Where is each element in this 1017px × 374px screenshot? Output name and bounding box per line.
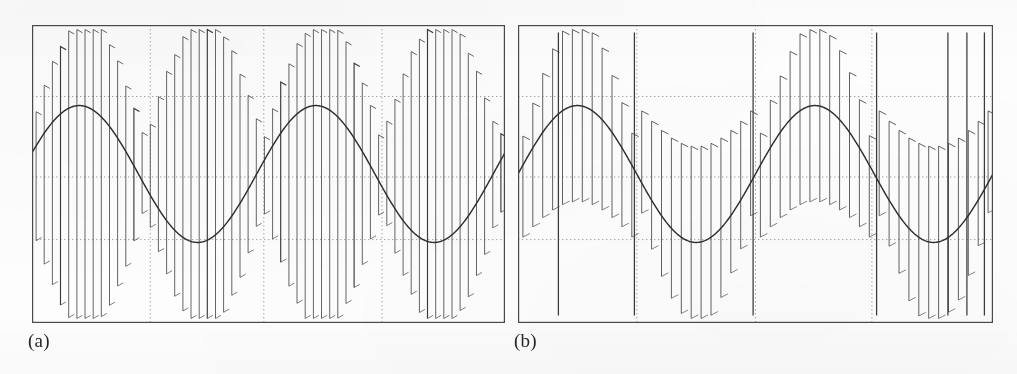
- pwm-pulse: [751, 111, 758, 216]
- pwm-pulse: [711, 143, 718, 315]
- pwm-pulse: [468, 53, 474, 297]
- pwm-pulse-foot: [289, 283, 295, 286]
- pwm-pulse-foot: [592, 201, 599, 205]
- pwm-pulse-foot: [322, 315, 328, 318]
- pwm-pulse-foot: [216, 315, 222, 318]
- pwm-pulse: [118, 61, 124, 286]
- pwm-pulse-foot: [370, 236, 376, 239]
- pwm-pulse-foot: [110, 302, 116, 305]
- pwm-pulse: [216, 30, 222, 319]
- pwm-pulse: [632, 133, 639, 237]
- pwm-pulse-foot: [199, 315, 205, 318]
- pwm-pulse: [419, 39, 425, 312]
- pwm-pulse-foot: [395, 250, 401, 253]
- pwm-pulse-foot: [436, 315, 442, 318]
- pwm-pulse-foot: [354, 284, 360, 287]
- pwm-pulse: [929, 146, 936, 318]
- pwm-pulse: [485, 98, 491, 255]
- pwm-pulse: [281, 82, 287, 262]
- pwm-pulse-foot: [183, 308, 189, 311]
- pwm-pulse: [949, 143, 956, 312]
- pwm-pulse: [691, 146, 698, 318]
- pwm-pulse-foot: [134, 238, 140, 241]
- pwm-pulse-foot: [652, 246, 659, 250]
- pwm-pulse-foot: [721, 294, 728, 298]
- pwm-pulse-foot: [939, 315, 946, 319]
- pwm-pulse: [760, 133, 767, 237]
- pwm-pulse-foot: [248, 250, 254, 253]
- pwm-pulse-foot: [543, 214, 550, 218]
- pwm-pulse: [191, 30, 197, 319]
- pwm-pulse-foot: [240, 274, 246, 277]
- pwm-pulse-foot: [929, 315, 936, 319]
- plot-frame-a: [33, 26, 505, 323]
- pwm-pulse-foot: [751, 212, 758, 216]
- pwm-pulse: [662, 130, 669, 276]
- pwm-pulse: [264, 137, 270, 214]
- pwm-pulse: [642, 111, 649, 213]
- pwm-pulse: [322, 30, 328, 319]
- pwm-pulse-foot: [572, 198, 579, 202]
- pwm-pulse: [460, 34, 466, 311]
- pwm-pulse: [403, 74, 409, 276]
- pwm-pulse: [869, 136, 876, 238]
- pwm-pulse: [379, 135, 385, 215]
- pwm-pulse-foot: [191, 315, 197, 318]
- pwm-pulse: [297, 44, 303, 304]
- pwm-pulse: [44, 85, 50, 264]
- waveform-canvas-a: [32, 25, 505, 323]
- pwm-pulse: [592, 33, 599, 205]
- pwm-pulse: [101, 30, 107, 317]
- pwm-pulse: [780, 76, 787, 218]
- pwm-pulse-foot: [889, 243, 896, 247]
- pwm-pulse: [879, 111, 886, 216]
- pwm-pulse: [830, 35, 837, 204]
- pwm-pulse-foot: [338, 315, 344, 318]
- pwm-pulse: [800, 34, 807, 205]
- pwm-pulse-foot: [256, 223, 262, 226]
- pwm-pulse: [232, 51, 238, 296]
- pwm-pulse-foot: [671, 295, 678, 299]
- pwm-pulse-foot: [662, 273, 669, 277]
- pwm-pulse-foot: [859, 223, 866, 227]
- pwm-pulse-foot: [362, 261, 368, 264]
- pwm-pulse: [346, 42, 352, 304]
- pwm-pulse: [428, 30, 434, 319]
- pwm-pulse: [387, 121, 393, 226]
- pwm-pulse-train-a: [36, 30, 505, 319]
- pwm-pulse: [810, 30, 817, 202]
- pwm-pulse-foot: [701, 315, 708, 319]
- pwm-pulse: [273, 109, 279, 239]
- pwm-pulse: [175, 55, 181, 297]
- pwm-pulse: [533, 103, 540, 227]
- pwm-pulse: [167, 71, 173, 274]
- pwm-pulse: [240, 74, 246, 277]
- pwm-pulse-foot: [563, 201, 570, 205]
- pwm-pulse-foot: [850, 214, 857, 218]
- pwm-pulse-foot: [820, 198, 827, 202]
- pwm-pulse-foot: [493, 225, 499, 228]
- pwm-pulse-foot: [281, 259, 287, 262]
- pwm-pulse-foot: [533, 223, 540, 227]
- panel-b-plot: [518, 25, 993, 323]
- pwm-pulse-foot: [968, 272, 975, 276]
- pwm-pulse-foot: [44, 261, 50, 264]
- pwm-pulse-foot: [101, 313, 107, 316]
- pwm-pulse-foot: [207, 315, 213, 318]
- pwm-pulse: [248, 95, 254, 253]
- pwm-pulse-foot: [460, 307, 466, 310]
- pwm-pulse: [523, 136, 530, 237]
- pwm-pulse: [305, 33, 311, 318]
- grid-lines: [32, 25, 505, 323]
- pwm-pulse: [224, 37, 230, 312]
- pwm-pulse-foot: [403, 272, 409, 275]
- pwm-pulse-foot: [175, 293, 181, 296]
- pwm-pulse-foot: [958, 296, 965, 300]
- pwm-pulse-foot: [379, 212, 385, 215]
- panel-a-caption: (a): [28, 330, 50, 352]
- pwm-pulse: [395, 99, 401, 253]
- pwm-pulse-foot: [582, 198, 589, 202]
- pwm-pulse: [477, 71, 483, 275]
- pwm-pulse-foot: [264, 211, 270, 214]
- pwm-pulse-foot: [711, 312, 718, 316]
